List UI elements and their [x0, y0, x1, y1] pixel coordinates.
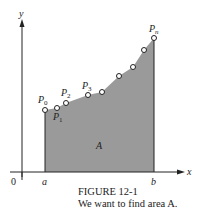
- y-axis-arrow-icon: [20, 19, 25, 27]
- figure-caption: We want to find area A.: [78, 198, 177, 210]
- area-diagram: y x P0 P1 P2 P3 Pn A a b 0: [0, 0, 204, 211]
- area-label: A: [95, 140, 103, 151]
- origin-label: 0: [11, 176, 16, 187]
- y-label: y: [18, 8, 24, 19]
- x-axis-arrow-icon: [177, 170, 185, 175]
- label-pn: Pn: [148, 23, 159, 36]
- figure-title: FIGURE 12-1: [78, 186, 138, 198]
- label-p3: P3: [81, 80, 92, 93]
- label-p2: P2: [60, 87, 71, 100]
- b-label: b: [151, 176, 156, 187]
- a-label: a: [42, 176, 47, 187]
- shaded-area: [45, 38, 154, 172]
- label-p0: P0: [37, 94, 48, 107]
- x-label: x: [186, 166, 192, 177]
